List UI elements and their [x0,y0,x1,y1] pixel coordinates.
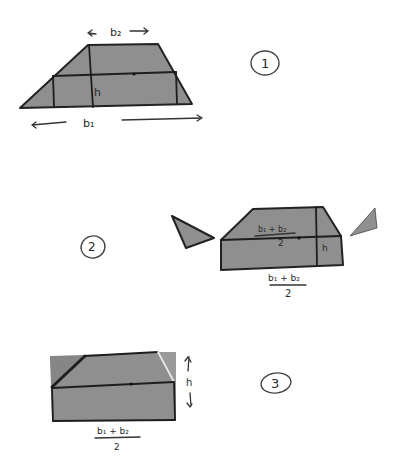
right-cut-triangle [350,208,377,236]
b1-left-arrow [32,122,66,128]
step-number: 2 [88,240,96,254]
midpoint-dot [298,237,301,240]
height-up-arrow [185,357,191,371]
step-2-marker: 2 [79,233,108,260]
bottom-denominator: 2 [285,288,291,299]
midpoint-dot [130,383,133,386]
step-1-figure: h b₂ b₁ [20,26,202,130]
left-vertical [53,76,54,107]
trapezoid-area-diagram: h b₂ b₁ 1 b₁ + b₂ 2 h b₁ + b₂ 2 2 [0,0,400,470]
midline-numerator: b₁ + b₂ [258,225,286,234]
step-2-figure: b₁ + b₂ 2 h b₁ + b₂ 2 [172,207,377,299]
bottom-numerator: b₁ + b₂ [268,273,300,283]
bottom-fraction-bar [95,437,140,438]
b2-label: b₂ [110,26,121,39]
trapezoid [20,44,192,108]
midpoint-dot [133,73,136,76]
b1-right-arrow [122,115,202,121]
bottom-edge [53,420,175,421]
height-label: h [186,377,192,388]
step-3-marker: 3 [260,371,292,395]
left-cut-triangle [172,216,214,248]
left-side [52,388,53,421]
step-number: 1 [261,56,269,71]
height-line [316,207,317,265]
step-1-marker: 1 [251,51,279,75]
height-label: h [94,86,101,99]
step-number: 3 [271,376,279,391]
b2-left-arrow [88,30,96,36]
bottom-numerator: b₁ + b₂ [97,426,129,436]
bottom-denominator: 2 [114,442,120,452]
b2-right-arrow [130,28,148,34]
b1-label: b₁ [83,117,94,130]
midline-denominator: 2 [278,238,284,248]
height-label: h [322,243,328,253]
right-vertical [176,72,177,104]
height-down-arrow [187,393,192,407]
right-side [174,382,175,420]
step-3-figure: h b₁ + b₂ 2 [50,352,192,452]
